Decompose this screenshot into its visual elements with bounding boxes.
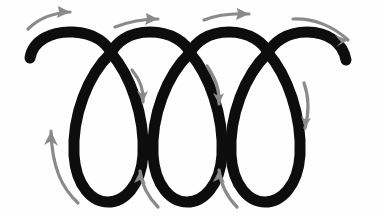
- coil-diagram-svg: [0, 0, 385, 216]
- figure-canvas: [0, 0, 385, 216]
